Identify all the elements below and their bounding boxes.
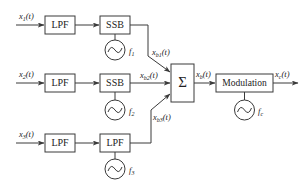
- lpf-label-3: LPF: [51, 137, 69, 148]
- output-label: xc(t): [274, 69, 290, 80]
- osc-freq-label-2: f2: [129, 106, 134, 117]
- row-1: x1(t) LPF SSB f1 xb1(t): [16, 11, 170, 72]
- signal-label-b1: xb1(t): [151, 47, 170, 58]
- row-2: x2(t) LPF SSB f2 xb2(t): [16, 69, 170, 120]
- osc-freq-label-3: f3: [129, 165, 134, 176]
- input-label-1: x1(t): [18, 11, 34, 22]
- row-3: x3(t) LPF LPF f3 xb3(t): [16, 94, 171, 179]
- input-label-3: x3(t): [18, 129, 34, 140]
- signal-label-b3: xb3(t): [152, 112, 171, 123]
- lpf2-label-3: LPF: [106, 137, 124, 148]
- ssb-label-2: SSB: [106, 77, 124, 88]
- signal-label-b2: xb2(t): [139, 70, 158, 81]
- input-label-2: x2(t): [18, 69, 34, 80]
- osc-freq-label-1: f1: [129, 46, 134, 57]
- signal-label-b: xb(t): [195, 69, 211, 80]
- lpf-label-1: LPF: [51, 19, 69, 30]
- osc-freq-label-c: fc: [258, 106, 263, 117]
- ssb-label-1: SSB: [106, 19, 124, 30]
- sigma-icon: Σ: [178, 74, 187, 90]
- lpf-label-2: LPF: [51, 77, 69, 88]
- block-diagram: x1(t) LPF SSB f1 xb1(t) x2(t) LPF SSB f2…: [0, 0, 306, 189]
- modulation-label: Modulation: [222, 78, 267, 88]
